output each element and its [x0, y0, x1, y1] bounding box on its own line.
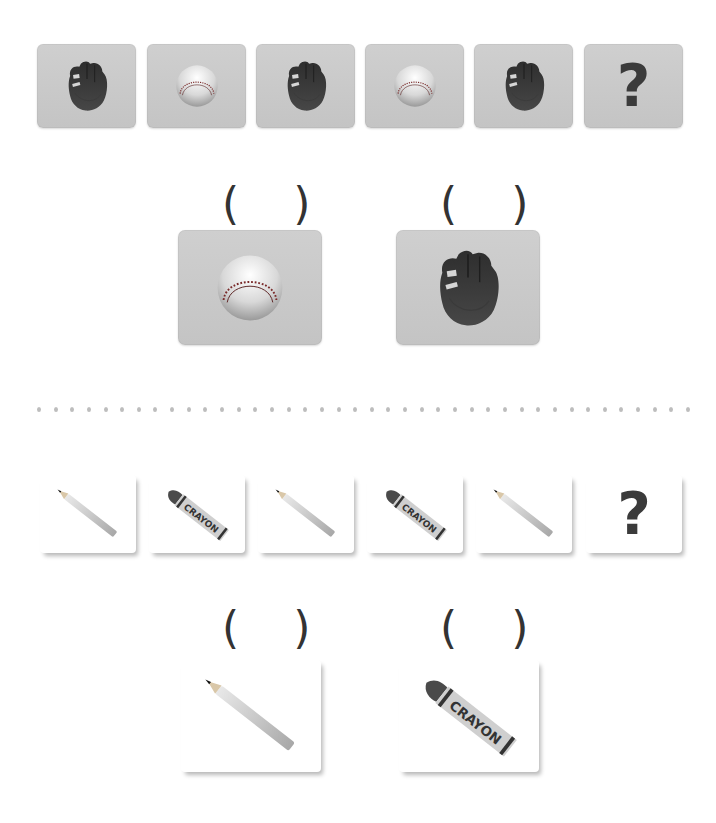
- separator-dot: [453, 407, 457, 412]
- crayon-icon: [409, 671, 529, 761]
- option-card-crayon[interactable]: [399, 660, 539, 772]
- crayon-icon: [157, 484, 237, 544]
- baseball-icon: [392, 63, 438, 109]
- separator-dot: [320, 407, 324, 412]
- separator-dot: [386, 407, 390, 412]
- separator-dot: [137, 407, 141, 412]
- sequence-card-3: [258, 475, 354, 553]
- crayon-icon: [375, 484, 455, 544]
- baseball-glove-icon: [501, 58, 547, 114]
- sequence-card-6: ?: [584, 44, 683, 128]
- sequence-card-6: ?: [586, 475, 682, 553]
- sequence-card-1: [37, 44, 136, 128]
- separator-dot: [203, 407, 207, 412]
- separator-dot: [303, 407, 307, 412]
- pencil-icon: [48, 484, 128, 544]
- pencil-icon: [191, 671, 311, 761]
- question-mark-icon: ?: [617, 57, 651, 115]
- separator-dot: [237, 407, 241, 412]
- separator-dot: [270, 407, 274, 412]
- baseball-glove-icon: [283, 58, 329, 114]
- sequence-card-2: [149, 475, 245, 553]
- separator-dot: [486, 407, 490, 412]
- separator-dot: [70, 407, 74, 412]
- separator-dot: [470, 407, 474, 412]
- separator-dot: [287, 407, 291, 412]
- baseball-icon: [214, 252, 286, 324]
- separator-dot: [87, 407, 91, 412]
- separator-dot: [553, 407, 557, 412]
- separator-dot: [220, 407, 224, 412]
- answer-blank-1[interactable]: ( ): [222, 606, 330, 650]
- sequence-card-5: [476, 475, 572, 553]
- baseball-icon: [174, 63, 220, 109]
- separator-dot: [503, 407, 507, 412]
- separator-dot: [337, 407, 341, 412]
- sequence-card-3: [256, 44, 355, 128]
- separator-dot: [636, 407, 640, 412]
- separator-dot: [403, 407, 407, 412]
- baseball-glove-icon: [433, 245, 503, 331]
- separator-dot: [37, 407, 41, 412]
- separator-dot: [253, 407, 257, 412]
- separator-dot: [120, 407, 124, 412]
- separator-dot: [370, 407, 374, 412]
- separator-dot: [520, 407, 524, 412]
- separator-dot: [586, 407, 590, 412]
- option-card-baseball[interactable]: [178, 230, 322, 345]
- sequence-card-1: [40, 475, 136, 553]
- separator-dot: [686, 407, 690, 412]
- answer-blank-1[interactable]: ( ): [222, 182, 330, 226]
- separator-dot: [536, 407, 540, 412]
- separator-dot: [436, 407, 440, 412]
- separator-dot: [570, 407, 574, 412]
- separator-dot: [669, 407, 673, 412]
- sequence-card-4: [365, 44, 464, 128]
- separator-dot: [619, 407, 623, 412]
- separator-dot: [54, 407, 58, 412]
- separator-dot: [170, 407, 174, 412]
- pencil-icon: [484, 484, 564, 544]
- sequence-card-4: [367, 475, 463, 553]
- separator-dot: [353, 407, 357, 412]
- separator-dot: [603, 407, 607, 412]
- question-mark-icon: ?: [617, 485, 651, 543]
- sequence-card-2: [147, 44, 246, 128]
- separator-dot: [420, 407, 424, 412]
- answer-blank-2[interactable]: ( ): [440, 182, 548, 226]
- option-card-baseball-glove[interactable]: [396, 230, 540, 345]
- separator-dot: [653, 407, 657, 412]
- baseball-glove-icon: [64, 58, 110, 114]
- separator-dot: [104, 407, 108, 412]
- separator-dot: [187, 407, 191, 412]
- pencil-icon: [266, 484, 346, 544]
- option-card-pencil[interactable]: [181, 660, 321, 772]
- answer-blank-2[interactable]: ( ): [440, 606, 548, 650]
- sequence-card-5: [474, 44, 573, 128]
- separator-dot: [153, 407, 157, 412]
